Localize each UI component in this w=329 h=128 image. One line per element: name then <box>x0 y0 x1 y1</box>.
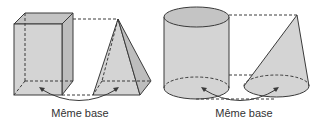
cylinder-body <box>164 17 229 99</box>
cone <box>244 15 309 97</box>
same-base-diagram: Même base Même base <box>0 0 329 128</box>
right-figure-group: Même base <box>164 7 309 119</box>
prism-front-face <box>14 24 62 95</box>
square-pyramid <box>93 19 151 95</box>
prism-right-face <box>62 13 73 95</box>
rectangular-prism <box>14 13 73 95</box>
right-caption: Même base <box>215 107 272 119</box>
left-caption: Même base <box>51 107 108 119</box>
cylinder <box>164 7 229 99</box>
cylinder-top-ellipse <box>164 7 229 27</box>
left-figure-group: Même base <box>14 13 151 119</box>
cone-body <box>244 15 309 97</box>
